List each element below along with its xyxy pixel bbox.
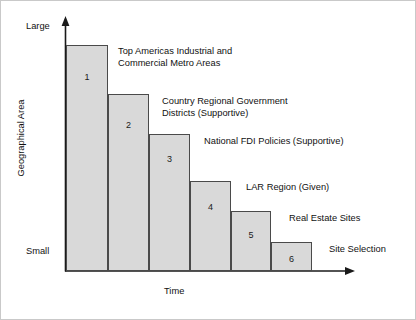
y-axis-title: Geographical Area (16, 90, 26, 186)
bar-label-3: 3 (149, 155, 190, 164)
plot-area: 1 2 3 4 5 6 Top Americas Industrial and … (1, 1, 416, 320)
annotation-5: Real Estate Sites (289, 212, 360, 224)
bar-4 (190, 181, 231, 271)
bar-label-1: 1 (66, 73, 108, 82)
y-axis-top-label: Large (26, 21, 50, 31)
bar-label-6: 6 (271, 255, 312, 264)
annotation-3: National FDI Policies (Supportive) (204, 135, 344, 147)
bar-label-2: 2 (108, 121, 149, 130)
annotation-2: Country Regional Government Districts (S… (162, 95, 288, 119)
bar-label-5: 5 (231, 231, 271, 240)
annotation-4: LAR Region (Given) (246, 181, 329, 193)
bar-label-4: 4 (190, 203, 231, 212)
bar-5 (231, 211, 271, 271)
y-axis-bottom-label: Small (26, 246, 49, 256)
annotation-6: Site Selection (329, 243, 386, 255)
chart-figure: 1 2 3 4 5 6 Top Americas Industrial and … (0, 0, 416, 320)
x-axis-title: Time (164, 286, 184, 296)
annotation-1: Top Americas Industrial and Commercial M… (118, 45, 232, 69)
